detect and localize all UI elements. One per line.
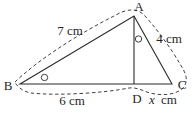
side-label-bd: 6 cm [59,93,85,108]
side-label-dc-value: x [148,92,155,107]
side-label-dc: x cm [148,92,177,107]
side-label-ab: 7 cm [57,23,83,38]
angle-mark-near-a-icon [135,36,141,42]
vertex-label-b: B [4,78,13,93]
dashed-enclosing-curve [15,10,186,95]
triangle-geometry-diagram: A B C D 7 cm 4 cm 6 cm x cm [0,0,195,114]
triangle-abc [20,16,172,84]
angle-mark-at-b-icon [41,74,47,80]
vertex-label-c: C [178,77,187,92]
vertex-label-a: A [134,0,144,14]
vertex-label-d: D [132,91,141,106]
side-label-ac: 4 cm [156,31,182,46]
side-label-dc-unit: cm [161,92,177,107]
